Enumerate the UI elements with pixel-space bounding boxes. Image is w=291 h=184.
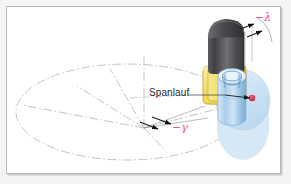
radial-construction-lines: [22, 69, 232, 150]
diagram-figure: Spanlauf −λ −γ: [0, 0, 291, 184]
lambda-angle-arrows: [240, 18, 272, 66]
spanlauf-label: Spanlauf: [149, 88, 189, 98]
tool-shank: [208, 19, 244, 74]
lambda-angle-label: −λ: [255, 12, 271, 23]
diagram-canvas: [0, 0, 291, 184]
gamma-angle-label: −γ: [172, 122, 188, 133]
